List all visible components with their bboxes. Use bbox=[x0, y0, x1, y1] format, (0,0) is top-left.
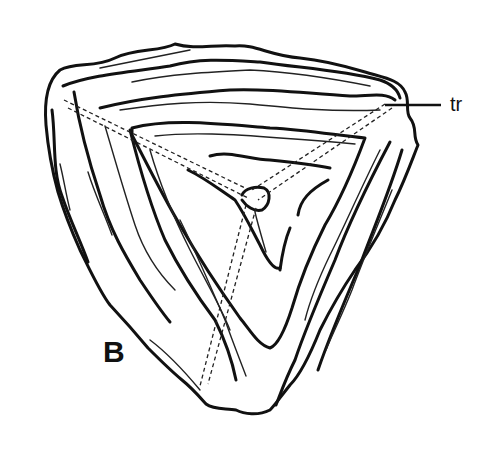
ridge bbox=[100, 90, 395, 108]
growth-line bbox=[88, 172, 112, 235]
panel-label: B bbox=[103, 335, 125, 369]
dashed-axis bbox=[252, 104, 385, 190]
specimen-drawing bbox=[0, 0, 493, 449]
growth-line bbox=[305, 150, 380, 320]
ridge bbox=[276, 142, 390, 405]
ridge bbox=[318, 150, 402, 370]
ridge bbox=[280, 228, 290, 270]
ridge bbox=[74, 92, 170, 322]
growth-line bbox=[150, 340, 200, 390]
annotation-tr: tr bbox=[450, 93, 462, 116]
dashed-axis bbox=[258, 108, 392, 200]
dashed-axis bbox=[64, 100, 245, 188]
growth-line bbox=[326, 190, 392, 350]
core-ridge bbox=[210, 154, 330, 168]
core-ridge bbox=[298, 180, 328, 215]
ridge bbox=[130, 130, 236, 380]
growth-line bbox=[120, 102, 380, 110]
